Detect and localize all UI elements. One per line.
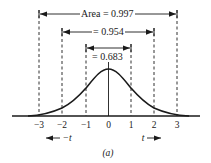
normal-distribution-figure: Area = 0.997 = 0.954 = 0.683 −3 −2 −1 0 … [0,0,211,163]
tick-label: 2 [152,120,157,130]
figure-graphics [0,0,211,163]
t-label: t [142,133,145,143]
tick-label: 1 [129,120,134,130]
tick-label: 3 [175,120,180,130]
tick-label: −1 [81,120,91,130]
minus-t-label: −t [62,133,71,143]
bracket-label-954: = 0.954 [92,27,125,37]
tick-label: −2 [57,120,67,130]
bracket-label-997: Area = 0.997 [80,9,135,19]
figure-caption: (a) [102,148,113,158]
tick-label: 0 [106,120,111,130]
bracket-label-683: = 0.683 [91,52,124,62]
tick-label: −3 [34,120,44,130]
